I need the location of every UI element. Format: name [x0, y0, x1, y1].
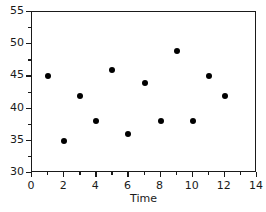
y-axis-tick-labels: 303540455055 — [0, 11, 31, 172]
plot-area — [31, 11, 256, 172]
y-tick-label: 35 — [10, 134, 24, 146]
x-tick-label: 6 — [124, 180, 131, 192]
x-tick-label: 14 — [249, 180, 263, 192]
data-point — [222, 93, 228, 99]
x-tick-label: 10 — [185, 180, 199, 192]
x-tick-major — [256, 172, 257, 177]
data-point — [158, 118, 164, 124]
x-tick-label: 2 — [60, 180, 67, 192]
x-tick-label: 4 — [92, 180, 99, 192]
scatter-chart-figure: 303540455055 02468101214 Time — [0, 0, 266, 212]
y-tick-label: 55 — [10, 5, 24, 17]
data-point — [45, 73, 51, 79]
y-tick-label: 45 — [10, 69, 24, 81]
data-point — [174, 48, 180, 54]
y-tick-label: 40 — [10, 102, 24, 114]
x-tick-label: 0 — [28, 180, 35, 192]
data-point — [125, 131, 131, 137]
y-tick-label: 30 — [10, 166, 24, 178]
x-tick-label: 8 — [156, 180, 163, 192]
data-point — [77, 93, 83, 99]
data-point — [109, 67, 115, 73]
y-tick-label: 50 — [10, 37, 24, 49]
x-tick-label: 12 — [217, 180, 231, 192]
data-point — [61, 138, 67, 144]
data-point — [206, 73, 212, 79]
data-point — [142, 80, 148, 86]
x-axis-tick-labels: 02468101214 — [31, 172, 256, 188]
x-axis-label: Time — [31, 192, 256, 205]
data-point — [93, 118, 99, 124]
data-point — [190, 118, 196, 124]
